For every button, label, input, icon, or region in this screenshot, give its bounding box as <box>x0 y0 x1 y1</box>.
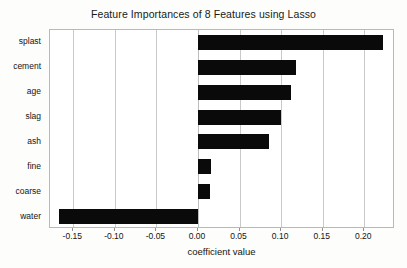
y-tick-label-fine: fine <box>27 161 41 171</box>
bar-splast <box>198 35 383 50</box>
bar-water <box>59 209 198 224</box>
bar-series <box>50 30 393 227</box>
x-tick-label--0.05: -0.05 <box>146 231 165 241</box>
x-axis-tick-labels: -0.15-0.10-0.050.000.050.100.150.20 <box>0 231 407 245</box>
y-tick-label-water: water <box>20 211 41 221</box>
bar-coarse <box>198 184 210 199</box>
x-tick-mark--0.15 <box>72 228 73 231</box>
x-tick-mark-0.20 <box>363 228 364 231</box>
bar-slag <box>198 110 281 125</box>
bar-age <box>198 85 291 100</box>
chart-figure: Feature Importances of 8 Features using … <box>0 0 407 268</box>
x-tick-label-0.20: 0.20 <box>355 231 372 241</box>
x-tick-mark-0.10 <box>280 228 281 231</box>
x-tick-label-0.00: 0.00 <box>189 231 206 241</box>
y-tick-label-ash: ash <box>27 136 41 146</box>
y-tick-label-age: age <box>27 86 41 96</box>
x-tick-mark-0.00 <box>197 228 198 231</box>
y-tick-label-coarse: coarse <box>15 186 41 196</box>
x-axis-title: coefficient value <box>49 246 394 257</box>
x-tick-label-0.15: 0.15 <box>313 231 330 241</box>
y-tick-label-splast: splast <box>19 36 41 46</box>
x-tick-mark-0.15 <box>322 228 323 231</box>
y-axis-tick-labels: splastcementageslagashfinecoarsewater <box>0 29 45 228</box>
x-tick-mark-0.05 <box>239 228 240 231</box>
x-tick-mark--0.10 <box>114 228 115 231</box>
bar-ash <box>198 134 269 149</box>
bar-cement <box>198 60 296 75</box>
bar-fine <box>198 159 211 174</box>
plot-area <box>49 29 394 228</box>
x-tick-label-0.05: 0.05 <box>230 231 247 241</box>
x-tick-label--0.10: -0.10 <box>104 231 123 241</box>
x-tick-label--0.15: -0.15 <box>63 231 82 241</box>
x-tick-mark--0.05 <box>155 228 156 231</box>
x-tick-label-0.10: 0.10 <box>272 231 289 241</box>
page-title: Feature Importances of 8 Features using … <box>0 8 407 20</box>
y-tick-label-slag: slag <box>25 111 41 121</box>
y-tick-label-cement: cement <box>13 61 41 71</box>
